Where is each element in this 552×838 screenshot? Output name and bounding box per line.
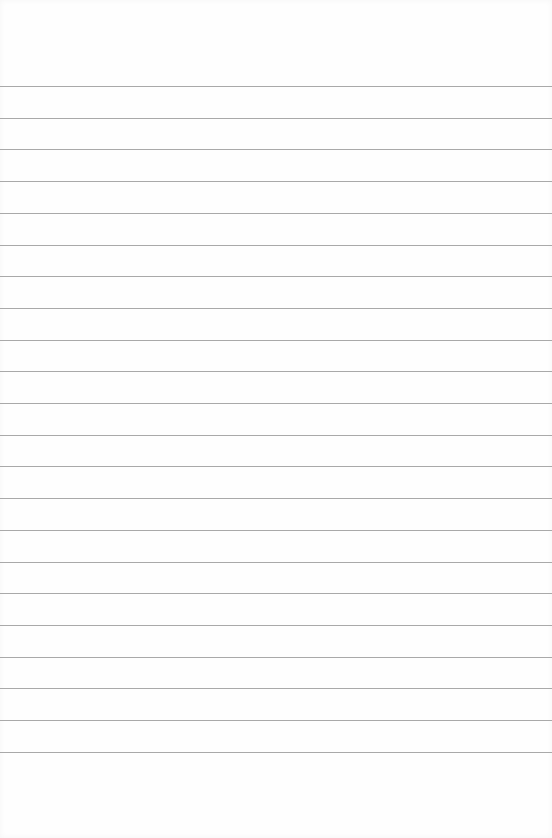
ruled-line <box>0 562 552 563</box>
ruled-line <box>0 720 552 721</box>
ruled-line <box>0 213 552 214</box>
ruled-line <box>0 308 552 309</box>
ruled-line <box>0 688 552 689</box>
ruled-line <box>0 498 552 499</box>
ruled-line <box>0 181 552 182</box>
ruled-line <box>0 593 552 594</box>
ruled-line <box>0 86 552 87</box>
ruled-line <box>0 625 552 626</box>
ruled-line <box>0 340 552 341</box>
ruled-line <box>0 403 552 404</box>
ruled-line <box>0 657 552 658</box>
ruled-line <box>0 118 552 119</box>
ruled-line <box>0 466 552 467</box>
ruled-line <box>0 435 552 436</box>
lined-paper-sheet <box>0 0 552 838</box>
ruled-line <box>0 149 552 150</box>
ruled-line <box>0 752 552 753</box>
ruled-line <box>0 371 552 372</box>
ruled-line <box>0 245 552 246</box>
ruled-line <box>0 276 552 277</box>
ruled-line <box>0 530 552 531</box>
